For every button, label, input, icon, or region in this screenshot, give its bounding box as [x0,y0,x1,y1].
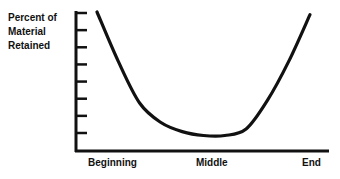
x-tick-middle: Middle [196,157,228,168]
retention-curve [97,12,310,136]
x-tick-end: End [302,157,321,168]
x-tick-beginning: Beginning [88,157,137,168]
chart-plot [0,0,340,179]
y-axis-ticks [76,13,87,133]
